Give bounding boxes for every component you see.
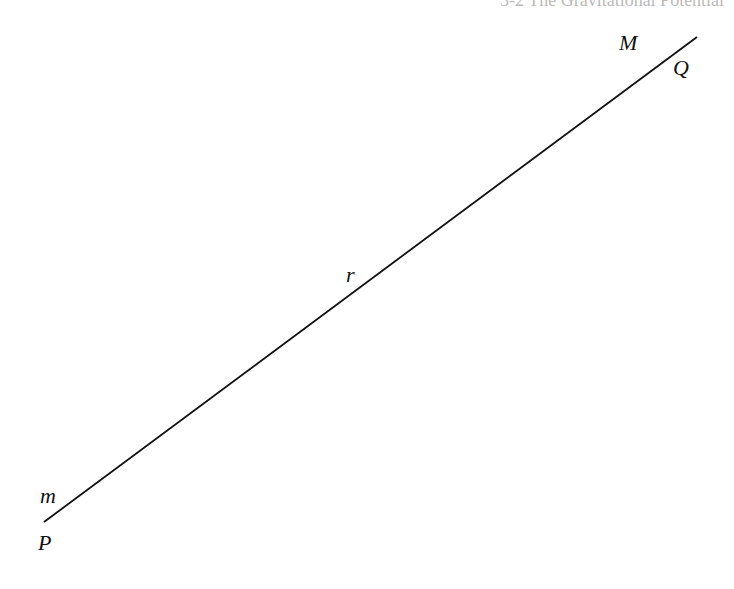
diagram-canvas bbox=[0, 0, 734, 589]
label-m: m bbox=[40, 483, 56, 509]
label-r: r bbox=[346, 262, 355, 288]
label-Q: Q bbox=[673, 55, 689, 81]
line-segment-PQ bbox=[44, 37, 697, 522]
label-P: P bbox=[38, 530, 51, 556]
label-M: M bbox=[619, 30, 637, 56]
